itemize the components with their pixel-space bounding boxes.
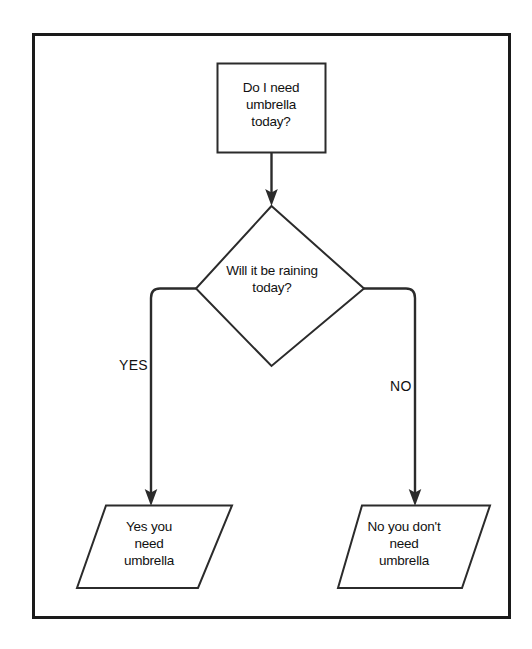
- edge-label-yes: YES: [119, 357, 148, 373]
- node-terminal-yes[interactable]: [77, 506, 232, 589]
- edge-decision-yes: [145, 289, 196, 507]
- node-terminal-no[interactable]: [338, 506, 490, 589]
- node-process-start[interactable]: [218, 64, 326, 153]
- edge-start-to-decision: [265, 152, 278, 206]
- flowchart-canvas: Do I need umbrella today? Will it be rai…: [0, 0, 532, 649]
- edge-decision-no: [364, 289, 421, 507]
- node-decision-rain[interactable]: [196, 206, 364, 366]
- edge-label-no: NO: [390, 378, 412, 394]
- flowchart-graphics: [0, 0, 532, 649]
